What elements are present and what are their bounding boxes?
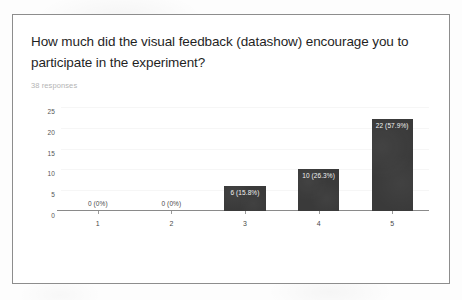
x-axis-tick-mark: [319, 211, 320, 214]
y-axis-tick: 10: [48, 170, 55, 177]
bar-group[interactable]: 10 (26.3%)4: [298, 107, 339, 211]
bar-group[interactable]: 0 (0%)2: [151, 107, 192, 211]
bar-group[interactable]: 22 (57.9%)5: [372, 107, 413, 211]
x-axis-tick-mark: [392, 211, 393, 214]
y-axis-tick: 5: [51, 191, 55, 198]
plot-area: 0 (0%)10 (0%)26 (15.8%)310 (26.3%)422 (5…: [61, 107, 429, 211]
x-axis-tick-label: 5: [352, 220, 433, 227]
response-count-label: 38 responses: [31, 81, 77, 90]
y-axis-tick: 20: [48, 128, 55, 135]
bar-chart: 0510152025 0 (0%)10 (0%)26 (15.8%)310 (2…: [31, 103, 433, 235]
page-title: How much did the visual feedback (datash…: [31, 31, 423, 73]
bar-value-label: 0 (0%): [137, 200, 206, 207]
survey-results-card: How much did the visual feedback (datash…: [12, 14, 450, 284]
y-axis-tick: 0: [51, 212, 55, 219]
y-axis-tick: 25: [48, 108, 55, 115]
bar[interactable]: [372, 119, 413, 211]
x-axis-tick-label: 1: [57, 220, 138, 227]
bar-value-label: 0 (0%): [63, 200, 132, 207]
bar-group[interactable]: 6 (15.8%)3: [224, 107, 265, 211]
y-axis-tick: 15: [48, 149, 55, 156]
x-axis-tick-mark: [245, 211, 246, 214]
bar-value-label: 10 (26.3%): [298, 172, 339, 179]
x-axis-tick-label: 3: [204, 220, 285, 227]
x-axis-tick-mark: [171, 211, 172, 214]
bar-value-label: 6 (15.8%): [224, 189, 265, 196]
x-axis-tick-label: 2: [131, 220, 212, 227]
bar-group[interactable]: 0 (0%)1: [77, 107, 118, 211]
x-axis-tick-label: 4: [278, 220, 359, 227]
x-axis-tick-mark: [98, 211, 99, 214]
bar-value-label: 22 (57.9%): [372, 122, 413, 129]
y-axis: 0510152025: [31, 107, 57, 211]
